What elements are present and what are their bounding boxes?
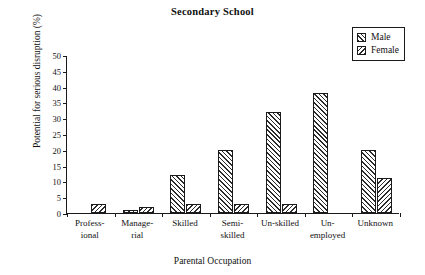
y-axis-tick bbox=[63, 56, 67, 57]
y-axis-tick-label: 40 bbox=[53, 83, 62, 92]
bar-female[interactable] bbox=[377, 178, 392, 213]
bar-female[interactable] bbox=[282, 204, 297, 213]
x-axis-category-label-line: skilled bbox=[205, 230, 261, 242]
bar-male[interactable] bbox=[266, 112, 281, 213]
y-axis-tick bbox=[63, 182, 67, 183]
plot-area: 05101520253035404550 bbox=[66, 56, 399, 214]
y-axis-tick bbox=[63, 119, 67, 120]
y-axis-tick bbox=[63, 88, 67, 89]
legend-label-female: Female bbox=[371, 46, 399, 56]
y-axis-tick bbox=[63, 167, 67, 168]
y-axis-tick-label: 0 bbox=[57, 210, 61, 219]
x-axis-category-label-line: rial bbox=[110, 230, 166, 242]
y-axis-tick-label: 5 bbox=[57, 194, 61, 203]
x-axis-category-label-line: Unknown bbox=[347, 218, 403, 230]
page-title: Secondary School bbox=[0, 6, 425, 17]
y-axis-tick-label: 45 bbox=[53, 68, 62, 77]
legend-item-male[interactable]: Male bbox=[357, 31, 399, 44]
y-axis-tick-label: 25 bbox=[53, 131, 62, 140]
bar-male[interactable] bbox=[123, 210, 138, 213]
legend-swatch-male-icon bbox=[357, 33, 366, 42]
legend-label-male: Male bbox=[371, 33, 391, 43]
x-axis-category-label-line: employed bbox=[300, 230, 356, 242]
x-axis-category-label: Unknown bbox=[347, 218, 403, 230]
x-axis-tick bbox=[162, 213, 163, 217]
bar-female[interactable] bbox=[91, 204, 106, 213]
x-axis-tick bbox=[352, 213, 353, 217]
x-axis-title: Parental Occupation bbox=[0, 256, 425, 266]
bar-male[interactable] bbox=[313, 93, 328, 213]
x-axis-tick bbox=[67, 213, 68, 217]
y-axis-tick-label: 30 bbox=[53, 115, 62, 124]
x-axis-tick bbox=[400, 213, 401, 217]
y-axis-tick-label: 35 bbox=[53, 99, 62, 108]
y-axis-tick-label: 50 bbox=[53, 52, 62, 61]
y-axis-tick-label: 10 bbox=[53, 178, 62, 187]
y-axis-tick-label: 20 bbox=[53, 147, 62, 156]
bar-female[interactable] bbox=[186, 204, 201, 213]
y-axis-tick-label: 15 bbox=[53, 162, 62, 171]
y-axis-tick bbox=[63, 72, 67, 73]
x-axis-tick bbox=[257, 213, 258, 217]
bar-male[interactable] bbox=[361, 150, 376, 213]
bar-female[interactable] bbox=[139, 207, 154, 213]
x-axis-tick bbox=[210, 213, 211, 217]
x-axis-tick bbox=[115, 213, 116, 217]
y-axis-tick bbox=[63, 135, 67, 136]
y-axis-tick bbox=[63, 151, 67, 152]
bar-male[interactable] bbox=[218, 150, 233, 213]
x-axis-tick bbox=[305, 213, 306, 217]
legend-swatch-female-icon bbox=[357, 46, 366, 55]
bar-male[interactable] bbox=[170, 175, 185, 213]
y-axis-tick bbox=[63, 198, 67, 199]
x-axis-category-labels: Profess-ionalManage-rialSkilledSemi-skil… bbox=[66, 218, 399, 254]
bar-female[interactable] bbox=[234, 204, 249, 213]
chart-figure: Secondary School Male Female Potential f… bbox=[0, 0, 425, 275]
y-axis-title: Potential for serious disruption (%) bbox=[32, 0, 42, 166]
y-axis-tick bbox=[63, 103, 67, 104]
